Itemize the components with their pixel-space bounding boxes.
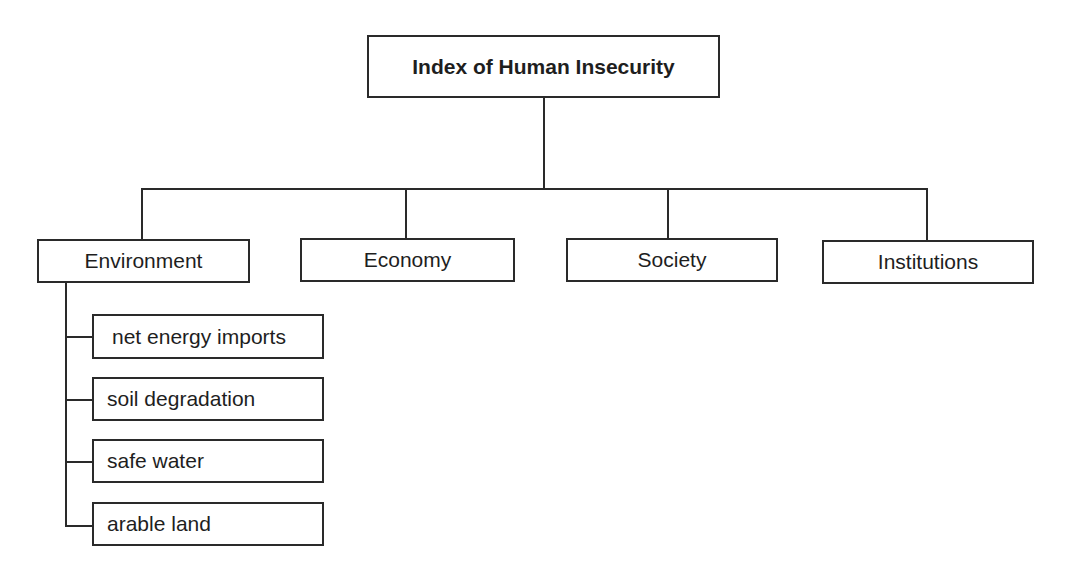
indicator-node-safe-water: safe water — [92, 439, 324, 483]
category-node-environment: Environment — [37, 239, 250, 283]
indicator-label: arable land — [107, 512, 211, 536]
category-label: Institutions — [878, 250, 978, 274]
indicator-label: safe water — [107, 449, 204, 473]
category-node-institutions: Institutions — [822, 240, 1034, 284]
society-connector — [667, 188, 669, 240]
sub-connector-4 — [65, 525, 93, 527]
indicator-label: net energy imports — [112, 325, 286, 349]
root-node-label: Index of Human Insecurity — [412, 55, 675, 79]
sub-connector-1 — [65, 336, 93, 338]
category-connector-horizontal — [141, 188, 928, 190]
indicator-node-net-energy-imports: net energy imports — [92, 314, 324, 359]
institutions-connector — [926, 188, 928, 242]
root-node: Index of Human Insecurity — [367, 35, 720, 98]
indicator-node-arable-land: arable land — [92, 502, 324, 546]
environment-connector — [141, 188, 143, 241]
sub-connector-2 — [65, 399, 93, 401]
category-label: Environment — [85, 249, 203, 273]
economy-connector — [405, 188, 407, 240]
environment-sub-spine — [65, 281, 67, 527]
indicator-node-soil-degradation: soil degradation — [92, 377, 324, 421]
category-node-economy: Economy — [300, 238, 515, 282]
category-label: Society — [638, 248, 707, 272]
category-node-society: Society — [566, 238, 778, 282]
sub-connector-3 — [65, 461, 93, 463]
category-label: Economy — [364, 248, 452, 272]
indicator-label: soil degradation — [107, 387, 255, 411]
root-connector-vertical — [543, 97, 545, 189]
